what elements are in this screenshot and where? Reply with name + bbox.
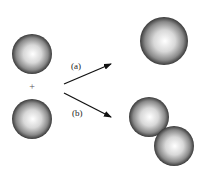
product-a-sphere (140, 17, 188, 65)
reactant-sphere-2 (12, 99, 52, 139)
product-group (129, 17, 194, 166)
reactant-sphere-1 (12, 34, 52, 74)
plus-sign: + (29, 81, 35, 92)
product-b-sphere-2 (154, 126, 194, 166)
coalescence-diagram: + (a)(b) (0, 0, 205, 175)
path-label-b: (b) (72, 108, 83, 118)
path-label-a: (a) (71, 61, 81, 71)
reaction-paths: (a)(b) (64, 61, 111, 118)
